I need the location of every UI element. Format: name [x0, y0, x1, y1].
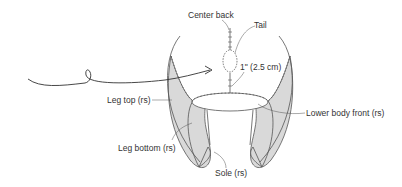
label-center-back: Center back	[188, 11, 234, 20]
leg-piece-right	[250, 56, 292, 168]
tail-arrow	[28, 70, 210, 86]
measurement-leader	[232, 72, 244, 86]
label-leg-bottom: Leg bottom (rs)	[118, 144, 176, 153]
label-sole: Sole (rs)	[215, 169, 247, 178]
tail-leader	[235, 26, 255, 53]
center-back-leader	[222, 20, 229, 30]
label-leg-top: Leg top (rs)	[107, 96, 150, 105]
sewing-diagram	[0, 0, 402, 187]
label-measurement: 1" (2.5 cm)	[240, 63, 281, 72]
label-lower-body-front: Lower body front (rs)	[306, 109, 384, 118]
tail-oval	[223, 50, 237, 72]
label-tail: Tail	[254, 21, 267, 30]
leg-gap	[207, 110, 253, 145]
sole-leader	[214, 152, 226, 168]
